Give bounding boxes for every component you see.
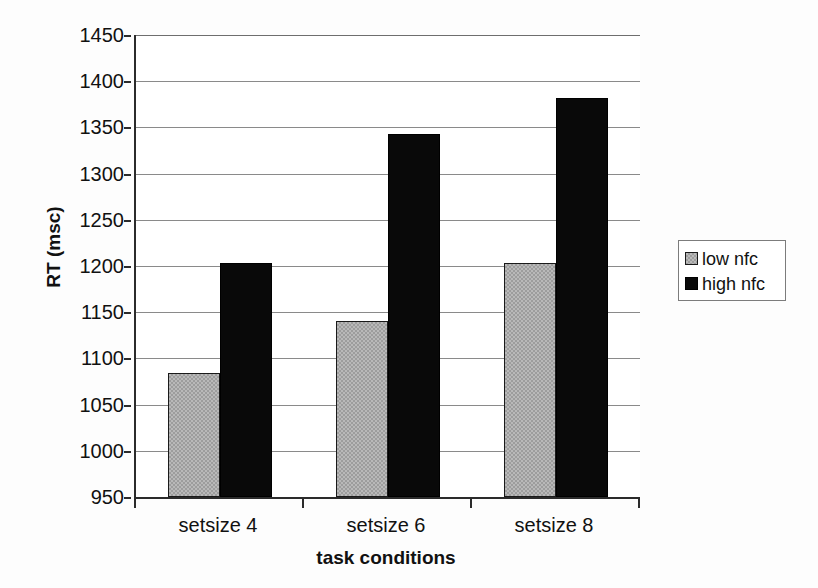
- x-tick-label-setsize-4: setsize 4: [128, 514, 308, 537]
- legend: low nfchigh nfc: [678, 240, 786, 301]
- gridline: [136, 35, 640, 36]
- y-tick-label: 1350: [38, 116, 124, 139]
- legend-item-high-nfc[interactable]: high nfc: [685, 271, 779, 296]
- x-tick-mark: [470, 499, 472, 508]
- x-axis-tick-labels: setsize 4setsize 6setsize 8: [134, 514, 638, 544]
- y-tick-mark: [124, 220, 131, 222]
- y-tick-mark: [124, 81, 131, 83]
- x-tick-mark: [638, 499, 640, 508]
- y-tick-label: 1100: [38, 347, 124, 370]
- y-tick-label: 1250: [38, 208, 124, 231]
- x-tick-label-setsize-6: setsize 6: [296, 514, 476, 537]
- x-axis-title: task conditions: [134, 547, 638, 569]
- y-tick-label: 1050: [38, 393, 124, 416]
- y-tick-mark: [124, 174, 131, 176]
- y-tick-mark: [124, 266, 131, 268]
- y-tick-mark: [124, 451, 131, 453]
- y-tick-label: 1200: [38, 255, 124, 278]
- legend-label: low nfc: [702, 250, 758, 268]
- bar-low-nfc-setsize-8: [504, 263, 556, 497]
- y-tick-mark: [124, 127, 131, 129]
- bar-low-nfc-setsize-4: [168, 373, 220, 497]
- bar-high-nfc-setsize-6: [388, 134, 440, 497]
- legend-label: high nfc: [702, 275, 765, 293]
- gridline: [136, 81, 640, 82]
- y-tick-label: 1150: [38, 301, 124, 324]
- y-tick-label: 950: [38, 486, 124, 509]
- y-axis-tick-labels: 1450140013501300125012001150110010501000…: [20, 35, 124, 497]
- y-tick-mark: [124, 405, 131, 407]
- legend-item-low-nfc[interactable]: low nfc: [685, 246, 779, 271]
- y-tick-label: 1450: [38, 24, 124, 47]
- plot-area: [134, 35, 640, 499]
- y-tick-mark: [124, 497, 131, 499]
- x-tick-mark: [302, 499, 304, 508]
- y-tick-mark: [124, 358, 131, 360]
- y-tick-mark: [124, 35, 131, 37]
- x-tick-mark: [134, 499, 136, 508]
- bar-low-nfc-setsize-6: [336, 321, 388, 497]
- y-tick-mark: [124, 312, 131, 314]
- legend-swatch-icon: [685, 277, 698, 290]
- y-tick-label: 1400: [38, 70, 124, 93]
- x-axis-tick-marks: [134, 499, 638, 509]
- y-tick-label: 1300: [38, 162, 124, 185]
- legend-swatch-icon: [685, 252, 698, 265]
- y-tick-label: 1000: [38, 439, 124, 462]
- bar-high-nfc-setsize-4: [220, 263, 272, 497]
- bar-high-nfc-setsize-8: [556, 98, 608, 497]
- x-tick-label-setsize-8: setsize 8: [464, 514, 644, 537]
- chart-page: RT (msc) 1450140013501300125012001150110…: [0, 0, 818, 588]
